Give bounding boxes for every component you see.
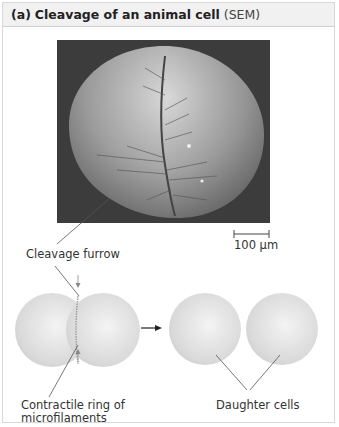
- label-contractile-ring-line2: microfilaments: [21, 411, 107, 425]
- label-daughter-cells: Daughter cells: [216, 398, 300, 412]
- daughter-cell-right: [246, 293, 318, 365]
- arrow-right-icon: [141, 325, 162, 331]
- daughter-cell-left: [169, 293, 241, 365]
- scale-bar-label: 100 µm: [234, 238, 278, 252]
- leader-line-daughter-left: [216, 355, 247, 390]
- diagram-overlay: [0, 0, 339, 427]
- leader-line-furrow-bottom: [55, 266, 79, 296]
- label-cleavage-furrow: Cleavage furrow: [26, 247, 120, 261]
- leader-line-furrow-top: [57, 198, 110, 244]
- arrow-down-icon: [76, 275, 81, 288]
- scale-bar: [234, 230, 269, 238]
- dividing-cell: [15, 293, 140, 367]
- label-contractile-ring-line1: Contractile ring of: [21, 398, 125, 412]
